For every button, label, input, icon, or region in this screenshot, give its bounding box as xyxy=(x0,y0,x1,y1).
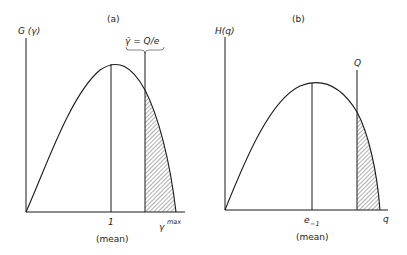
panel-a-mean-tick: 1 xyxy=(108,217,114,227)
panel-b-x-label: q xyxy=(383,214,389,224)
panel-b-mean-tick-sub: −1 xyxy=(310,220,320,228)
panel-a-y-label: G (γ) xyxy=(18,26,40,36)
diagram-canvas: (a) G (γ) γ̄ = Q/e 1 (mean) γ max (b) H(… xyxy=(0,0,407,255)
panel-b-threshold-label: Q xyxy=(354,58,361,68)
panel-a-x-label: γ xyxy=(159,222,165,232)
panel-a-mean-caption: (mean) xyxy=(96,234,129,244)
panel-b-mean-caption: (mean) xyxy=(296,232,329,242)
panel-a-x-label-sup: max xyxy=(167,218,181,226)
panel-b: (b) H(q) Q e −1 (mean) q xyxy=(215,14,389,242)
panel-b-title: (b) xyxy=(292,14,305,24)
panel-b-y-label: H(q) xyxy=(215,26,235,36)
panel-a-title: (a) xyxy=(107,14,120,24)
panel-a-brace xyxy=(126,47,164,53)
panel-b-shaded-tail xyxy=(357,112,380,210)
panel-a-shaded-tail xyxy=(145,90,176,212)
panel-a: (a) G (γ) γ̄ = Q/e 1 (mean) γ max xyxy=(18,14,185,244)
panel-a-threshold-label: γ̄ = Q/e xyxy=(125,36,160,46)
